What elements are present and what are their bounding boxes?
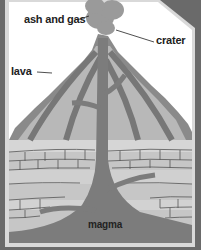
label-ash-and-gas: ash and gas (24, 13, 85, 25)
label-magma: magma (88, 219, 122, 230)
label-crater: crater (156, 34, 185, 46)
label-lava: lava (11, 65, 32, 77)
